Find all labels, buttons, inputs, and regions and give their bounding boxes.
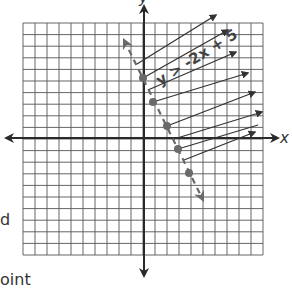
point — [174, 145, 182, 153]
x-axis-label: x — [279, 129, 289, 147]
point — [185, 169, 193, 177]
point — [139, 74, 147, 82]
y-axis-label: y — [138, 0, 149, 7]
point — [163, 122, 171, 130]
shading-ray — [167, 92, 255, 126]
margin-text-fragment: oint — [0, 272, 31, 288]
margin-text-fragment: d — [0, 212, 10, 228]
point — [149, 98, 157, 106]
